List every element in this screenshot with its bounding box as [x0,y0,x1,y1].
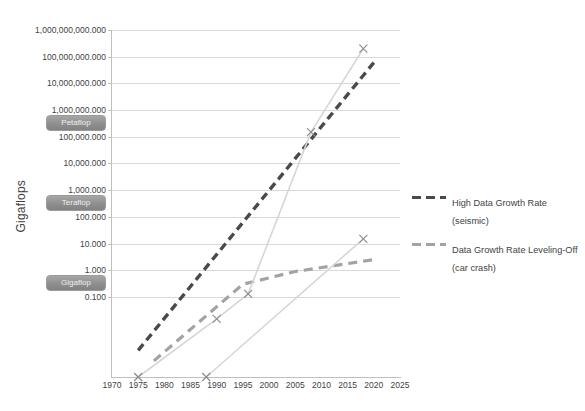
legend-item[interactable]: High Data Growth Rate (seismic) [412,192,584,228]
gridline [112,137,400,138]
x-tick-label: 1970 [103,380,122,390]
y-tick-label: 10,000,000.000 [47,78,106,88]
y-tick-label: 10.000 [80,239,106,249]
gridline [112,57,400,58]
y-tick-label: 1,000.000 [68,185,106,195]
y-tick-label: 1,000,000.000 [52,105,106,115]
gridline [112,110,400,111]
x-tick-label: 2020 [364,380,383,390]
x-tick-label: 2010 [312,380,331,390]
y-axis-title: Gigaflops [14,180,28,233]
gridline [112,190,400,191]
chart-legend: High Data Growth Rate (seismic)Data Grow… [412,192,584,286]
legend-swatch-icon [412,196,446,199]
top-strip-text [0,0,585,12]
legend-label: High Data Growth Rate (seismic) [452,198,547,226]
gigaflop-badge: Gigaflop [46,275,106,291]
x-tick-label: 1980 [155,380,174,390]
gridline [112,83,400,84]
legend-label: Data Growth Rate Leveling-Off (car crash… [452,245,577,273]
gridline [112,297,400,298]
bottom-caption [4,398,424,410]
x-tick-label: 1975 [129,380,148,390]
legend-swatch-icon [412,243,446,246]
x-tick-label: 2005 [286,380,305,390]
x-tick-label: 2025 [391,380,410,390]
legend-item[interactable]: Data Growth Rate Leveling-Off (car crash… [412,239,584,275]
y-tick-label: 0.100 [85,292,106,302]
plot-area [112,30,400,377]
x-tick-label: 2000 [260,380,279,390]
gridline [112,244,400,245]
x-tick-label: 1985 [181,380,200,390]
petaflop-badge: Petaflop [46,115,106,131]
x-tick-label: 2015 [338,380,357,390]
y-tick-label: 1,000,000,000.000 [35,25,106,35]
gridline [112,30,400,31]
y-tick-label: 100,000.000 [59,132,106,142]
gridline [112,217,400,218]
y-tick-label: 10,000.000 [63,158,106,168]
teraflop-badge: Teraflop [46,195,106,211]
gridline [112,270,400,271]
x-axis-line [112,377,401,378]
chart-container: 1,000,000,000.000100,000,000.00010,000,0… [0,0,585,411]
x-axis-tick-labels: 1970197519801985199019952000200520102015… [112,380,401,396]
x-tick-label: 1990 [207,380,226,390]
x-tick-label: 1995 [233,380,252,390]
y-tick-label: 100,000,000.000 [42,52,106,62]
gridline [112,163,400,164]
y-tick-label: 100.000 [75,212,106,222]
y-tick-label: 1.000 [85,265,106,275]
